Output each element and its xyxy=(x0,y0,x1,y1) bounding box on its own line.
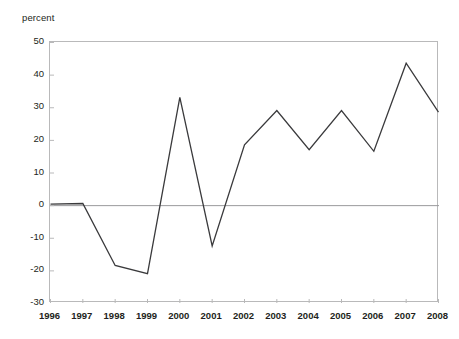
y-axis-tick-label: 40 xyxy=(10,69,44,79)
x-axis-tick-label: 2000 xyxy=(168,310,189,321)
x-axis-tick-label: 2005 xyxy=(330,310,351,321)
x-axis-tick-label: 2001 xyxy=(201,310,222,321)
y-axis-tick-labels: 50403020100-10-20-30 xyxy=(8,41,44,302)
y-axis-tick-label: -20 xyxy=(10,264,44,274)
y-axis-tick-label: -10 xyxy=(10,232,44,242)
y-axis-tick-label: 20 xyxy=(10,134,44,144)
x-axis-tick-label: 1997 xyxy=(71,310,92,321)
y-axis-tick-label: 50 xyxy=(10,36,44,46)
chart-figure: percent 50403020100-10-20-30 19961997199… xyxy=(0,0,459,339)
x-axis-tick-label: 2008 xyxy=(427,310,448,321)
y-axis-tick-label: -30 xyxy=(10,297,44,307)
x-axis-tick-label: 2003 xyxy=(265,310,286,321)
plot-area xyxy=(49,41,438,302)
x-axis-tick-label: 2007 xyxy=(395,310,416,321)
data-series-line xyxy=(51,63,439,273)
x-axis-tick-label: 2004 xyxy=(298,310,319,321)
y-axis-unit-label: percent xyxy=(22,12,54,23)
x-axis-tick-label: 1998 xyxy=(104,310,125,321)
line-chart-svg xyxy=(50,42,439,303)
y-axis-tick-label: 30 xyxy=(10,101,44,111)
x-axis-tick-label: 2002 xyxy=(233,310,254,321)
x-axis-tick-label: 1996 xyxy=(39,310,60,321)
y-axis-tick-label: 10 xyxy=(10,167,44,177)
x-axis-tick-label: 2006 xyxy=(362,310,383,321)
x-axis-tick-label: 1999 xyxy=(136,310,157,321)
y-axis-tick-label: 0 xyxy=(10,199,44,209)
x-axis-tick-labels: 1996199719981999200020012002200320042005… xyxy=(49,310,438,326)
